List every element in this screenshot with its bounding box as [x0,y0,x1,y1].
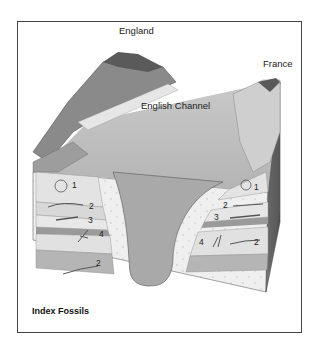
label-english-channel: English Channel [141,100,210,111]
figure-caption: Index Fossils [32,306,89,316]
fossil-number: 1 [72,180,77,190]
label-england: England [119,25,154,36]
fossil-number: 2 [254,237,259,247]
fossil-number: 2 [96,258,101,268]
block-diagram [18,22,303,334]
fossil-number: 4 [199,237,204,247]
fossil-number: 1 [254,182,259,192]
figure-frame: England France English Channel 1 2 3 4 2… [17,21,302,333]
label-france: France [263,58,293,69]
fossil-number: 4 [99,229,104,239]
fossil-number: 2 [89,201,94,211]
fossil-number: 3 [88,215,93,225]
fossil-number: 3 [214,212,219,222]
fossil-number: 2 [223,200,228,210]
